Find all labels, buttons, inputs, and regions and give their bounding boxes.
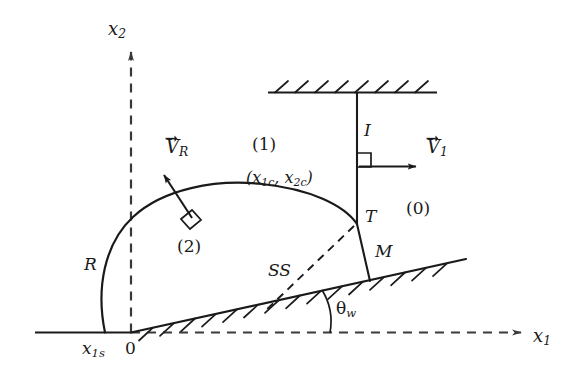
region-0-label: (0) bbox=[406, 200, 430, 217]
velocity-vr-label: V R bbox=[166, 138, 188, 159]
mach-stem-label: M bbox=[375, 243, 392, 260]
region-1-label: (1) bbox=[252, 136, 276, 153]
x1-axis-label: x1 bbox=[533, 327, 551, 348]
right-angle-marker-incident bbox=[357, 153, 371, 167]
wedge-angle-arc bbox=[322, 290, 331, 333]
region-2-label: (2) bbox=[177, 238, 201, 255]
right-angle-marker-reflected bbox=[181, 210, 201, 229]
velocity-vr-arrow bbox=[164, 175, 192, 218]
shock-foot-label: x1s bbox=[82, 340, 105, 360]
reflected-shock-label: R bbox=[84, 256, 97, 273]
origin-label: 0 bbox=[125, 340, 136, 357]
figure-canvas: x2 x1 0 x1s R I T M SS θw (0) (1) (2) (x… bbox=[0, 0, 571, 379]
x2-axis-label: x2 bbox=[108, 20, 126, 41]
wedge-angle-label: θw bbox=[336, 300, 356, 320]
curve-center-label: (x1c, x2c) bbox=[246, 170, 313, 189]
velocity-v1-label: V 1 bbox=[427, 138, 448, 159]
slipstream-label: SS bbox=[268, 262, 291, 279]
wedge-hatching bbox=[139, 263, 447, 340]
mach-stem-line bbox=[357, 224, 370, 281]
shock-reflection-diagram bbox=[0, 0, 571, 379]
triple-point-label: T bbox=[365, 208, 376, 225]
top-wall-hatching bbox=[275, 81, 428, 93]
incident-shock-label: I bbox=[364, 122, 371, 139]
